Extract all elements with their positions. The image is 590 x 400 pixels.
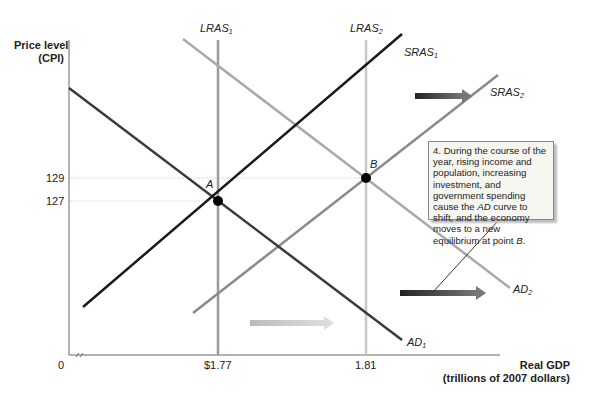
point-a [213,196,223,206]
ad1-line [69,88,402,340]
shift-arrow-sras-head [462,89,472,103]
point-b [361,173,371,183]
y-tick-127: 127 [46,195,64,207]
y-axis-label-line2: (CPI) [14,52,64,65]
shift-arrow-ad [400,290,477,296]
y-axis-label: Price level (CPI) [14,39,64,65]
sras1-label: SRAS1 [404,46,438,59]
shift-arrow-ad-head [476,286,486,300]
point-b-label: B [370,158,377,170]
x-tick-181: 1.81 [355,359,376,371]
sras2-label: SRAS2 [490,86,524,99]
lras1-label: LRAS1 [200,22,233,35]
point-a-label: A [206,178,213,190]
x-tick-177: $1.77 [204,359,232,371]
y-tick-129: 129 [46,172,64,184]
y-axis-label-line1: Price level [14,39,64,52]
annotation-callout: 4. During the course of the year, rising… [428,141,554,220]
shift-arrow-lras-head [324,316,334,330]
shift-arrow-sras [415,93,463,99]
shift-arrow-lras [250,320,325,326]
ad2-label: AD2 [513,283,532,296]
origin-label: 0 [58,359,64,371]
ad1-label: AD1 [407,336,426,349]
x-axis-label: Real GDP (trillions of 2007 dollars) [420,359,570,385]
x-axis-label-line2: (trillions of 2007 dollars) [420,372,570,385]
x-axis-label-line1: Real GDP [420,359,570,372]
lras2-label: LRAS2 [350,22,383,35]
